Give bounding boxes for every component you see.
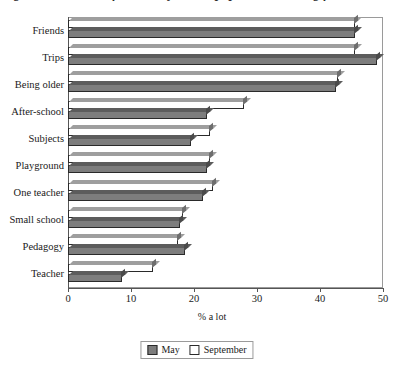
bar-top-face — [69, 261, 160, 265]
bar-may — [68, 84, 336, 92]
bar-side-face — [243, 96, 247, 105]
bar-row — [68, 207, 383, 234]
bar-side-face — [376, 52, 380, 61]
x-tick-mark — [383, 288, 384, 292]
bar-may — [68, 247, 185, 255]
bar-may — [68, 111, 207, 119]
y-axis-labels: FriendsTripsBeing olderAfter-schoolSubje… — [0, 17, 64, 288]
y-axis-label: Teacher — [0, 268, 64, 279]
x-tick-mark — [68, 288, 69, 292]
bar-row — [68, 44, 383, 71]
bar-top-face — [69, 44, 362, 48]
bar-row — [68, 125, 383, 152]
bar-side-face — [212, 177, 216, 186]
y-axis-label: Trips — [0, 52, 64, 63]
legend-label: September — [204, 344, 247, 355]
bar-top-face — [69, 152, 217, 156]
bar-side-face — [206, 160, 210, 169]
bar-side-face — [354, 42, 358, 51]
bar-side-face — [179, 215, 183, 224]
bar-side-face — [190, 133, 194, 142]
bar-side-face — [206, 106, 210, 115]
y-axis-label: Small school — [0, 214, 64, 225]
bar-side-face — [209, 150, 213, 159]
legend-label: May — [161, 344, 179, 355]
bar-top-face — [69, 125, 217, 129]
bar-row — [68, 261, 383, 288]
bar-top-face — [69, 27, 362, 31]
chart-legend: MaySeptember — [140, 341, 253, 359]
bar-side-face — [184, 242, 188, 251]
september-swatch — [190, 345, 200, 355]
bar-side-face — [354, 15, 358, 24]
y-axis-label: Being older — [0, 79, 64, 90]
legend-item: May — [147, 344, 179, 355]
chart-title-clipped: Figure 3. Features of secondary school p… — [0, 0, 394, 4]
bar-may — [68, 274, 122, 282]
x-tick-label: 20 — [189, 293, 200, 305]
bar-may — [68, 165, 207, 173]
bar-side-face — [177, 232, 181, 241]
bar-side-face — [337, 69, 341, 78]
bar-row — [68, 234, 383, 261]
legend-item: September — [190, 344, 247, 355]
bar-top-face — [69, 207, 190, 211]
bar-side-face — [209, 123, 213, 132]
x-tick-mark — [131, 288, 132, 292]
bar-may — [68, 57, 377, 65]
x-tick-mark — [194, 288, 195, 292]
x-axis-title-text: % a lot — [168, 311, 226, 322]
x-tick-label: 40 — [315, 293, 326, 305]
bar-may — [68, 138, 191, 146]
bar-rows — [68, 17, 383, 288]
bar-may — [68, 193, 203, 201]
bar-row — [68, 180, 383, 207]
bar-side-face — [354, 25, 358, 34]
chart-title: Figure 3. Features of secondary school p… — [0, 0, 394, 1]
x-tick-label: 0 — [65, 293, 70, 305]
x-tick-label: 50 — [378, 293, 389, 305]
bar-side-face — [202, 187, 206, 196]
y-axis-label: After-school — [0, 106, 64, 117]
bar-may — [68, 30, 355, 38]
bar-chart: Figure 3. Features of secondary school p… — [0, 0, 394, 367]
bar-row — [68, 152, 383, 179]
y-axis-label: One teacher — [0, 187, 64, 198]
bar-row — [68, 71, 383, 98]
bar-top-face — [69, 108, 214, 112]
bar-top-face — [69, 162, 214, 166]
bar-row — [68, 98, 383, 125]
y-axis-label: Friends — [0, 25, 64, 36]
bar-top-face — [69, 271, 129, 275]
y-axis-label: Pedagogy — [0, 241, 64, 252]
bar-may — [68, 220, 180, 228]
x-tick-label: 10 — [126, 293, 137, 305]
bar-top-face — [69, 81, 343, 85]
bar-top-face — [69, 217, 187, 221]
x-axis-ticks: 01020304050 — [0, 288, 394, 304]
bar-top-face — [69, 244, 192, 248]
x-tick-mark — [257, 288, 258, 292]
bar-side-face — [182, 205, 186, 214]
bar-top-face — [69, 71, 345, 75]
bar-top-face — [69, 180, 220, 184]
bar-top-face — [69, 135, 198, 139]
y-axis-label: Subjects — [0, 133, 64, 144]
y-axis-label: Playground — [0, 160, 64, 171]
bar-top-face — [69, 190, 210, 194]
bar-side-face — [152, 259, 156, 268]
bar-top-face — [69, 98, 251, 102]
x-tick-mark — [320, 288, 321, 292]
bar-side-face — [335, 79, 339, 88]
bar-top-face — [69, 17, 362, 21]
x-tick-label: 30 — [252, 293, 263, 305]
bar-top-face — [69, 54, 384, 58]
may-swatch — [147, 345, 157, 355]
bar-row — [68, 17, 383, 44]
bar-top-face — [69, 234, 185, 238]
x-axis-title: % a lot — [0, 311, 394, 322]
